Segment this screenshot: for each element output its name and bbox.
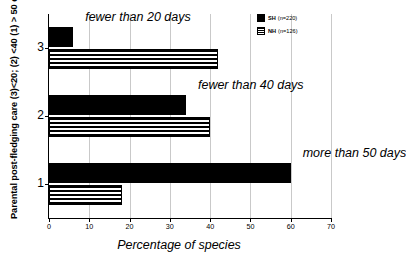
x-axis-title: Percentage of species xyxy=(0,238,358,252)
bar-sh xyxy=(49,27,73,47)
y-axis-tick-label: 3 xyxy=(32,40,44,54)
chart-legend: SH (n=220) NH (n=126) xyxy=(257,14,298,40)
x-axis-tick-label: 60 xyxy=(281,222,301,231)
legend-count-sh: (n=220) xyxy=(278,15,297,21)
x-axis-tick-label: 30 xyxy=(160,222,180,231)
x-axis-tick-label: 0 xyxy=(39,222,59,231)
gridline xyxy=(130,14,131,218)
y-axis-title: Parental post-fledging care (3)<20; (2) … xyxy=(9,7,19,219)
x-axis-tick-label: 20 xyxy=(120,222,140,231)
bar-nh xyxy=(49,49,218,69)
x-axis-tick-label: 10 xyxy=(79,222,99,231)
bar-sh xyxy=(49,95,186,115)
gridline xyxy=(170,14,171,218)
gridline xyxy=(210,14,211,218)
legend-label-nh: NH xyxy=(268,28,276,34)
plot-area: 0102030405060703fewer than 20 days2fewer… xyxy=(48,14,331,219)
y-axis-tick-label: 1 xyxy=(32,176,44,190)
gridline xyxy=(250,14,251,218)
legend-label-sh: SH xyxy=(268,15,276,21)
gridline xyxy=(291,14,292,218)
bar-nh xyxy=(49,117,210,137)
gridline xyxy=(331,14,332,218)
legend-swatch-nh-icon xyxy=(257,27,265,35)
x-axis-tick-label: 70 xyxy=(321,222,341,231)
bar-annotation: fewer than 20 days xyxy=(85,10,191,24)
legend-item-nh: NH (n=126) xyxy=(257,27,298,35)
bar-annotation: fewer than 40 days xyxy=(198,78,304,92)
bar-sh xyxy=(49,163,291,183)
legend-count-nh: (n=126) xyxy=(278,28,297,34)
legend-swatch-sh-icon xyxy=(257,14,265,22)
legend-item-sh: SH (n=220) xyxy=(257,14,298,22)
x-axis-tick-label: 50 xyxy=(240,222,260,231)
x-axis-tick-label: 40 xyxy=(200,222,220,231)
bar-annotation: more than 50 days xyxy=(303,146,406,160)
y-axis-tick-label: 2 xyxy=(32,108,44,122)
bar-nh xyxy=(49,185,122,205)
